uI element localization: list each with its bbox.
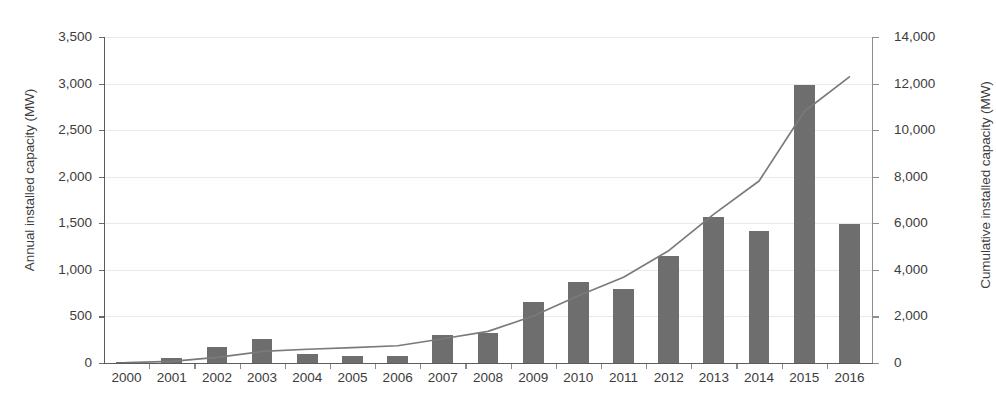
x-axis-tick-label-2005: 2005: [337, 370, 367, 385]
x-axis-tick-label-2011: 2011: [609, 370, 638, 385]
x-axis-tick-label-2010: 2010: [563, 370, 593, 385]
y-axis-left-tick-mark: [99, 316, 104, 317]
y-axis-left-tick-label: 500: [69, 309, 92, 323]
x-axis-tick-label-2008: 2008: [473, 370, 503, 385]
y-axis-left-tick-label: 3,000: [58, 77, 92, 91]
x-axis-tick-mark: [420, 364, 421, 369]
cumulative-line-series: [104, 37, 872, 363]
y-axis-right-tick-label: 14,000: [894, 30, 935, 44]
y-axis-right-tick-mark: [873, 363, 879, 364]
x-axis-tick-mark: [240, 364, 241, 369]
x-axis-tick-label-2014: 2014: [744, 370, 774, 385]
x-axis-tick-label-2006: 2006: [383, 370, 413, 385]
y-axis-left-tick-label: 3,500: [58, 30, 92, 44]
x-axis-tick-mark: [285, 364, 286, 369]
y-axis-right-line: [872, 37, 873, 364]
x-axis-tick-label-2016: 2016: [834, 370, 864, 385]
y-axis-left-tick-mark: [99, 270, 104, 271]
x-axis-tick-mark: [646, 364, 647, 369]
x-axis-tick-mark: [194, 364, 195, 369]
y-axis-right-tick-mark: [873, 130, 879, 131]
y-axis-right-tick-mark: [873, 177, 879, 178]
x-axis-tick-label-2003: 2003: [247, 370, 277, 385]
x-axis-tick-mark: [736, 364, 737, 369]
y-axis-left-tick-label: 2,000: [58, 170, 92, 184]
x-axis-tick-mark: [465, 364, 466, 369]
y-axis-left-line: [104, 37, 105, 364]
y-axis-right-ticks: 02,0004,0006,0008,00010,00012,00014,000: [890, 0, 952, 407]
y-axis-left-tick-mark: [99, 37, 104, 38]
y-axis-right-tick-label: 8,000: [894, 170, 928, 184]
y-axis-right-tick-label: 4,000: [894, 263, 928, 277]
x-axis-ticks: 2000200120022003200420052006200720082009…: [104, 370, 872, 394]
cumulative-line-path: [127, 77, 850, 363]
y-axis-right-tick-mark: [873, 37, 879, 38]
y-axis-left-tick-label: 1,000: [58, 263, 92, 277]
y-axis-right-tick-label: 12,000: [894, 77, 935, 91]
x-axis-tick-label-2000: 2000: [112, 370, 142, 385]
x-axis-tick-mark: [149, 364, 150, 369]
y-axis-right-tick-mark: [873, 316, 879, 317]
y-axis-right-tick-mark: [873, 223, 879, 224]
x-axis-tick-mark: [827, 364, 828, 369]
y-axis-left-tick-label: 1,500: [58, 216, 92, 230]
x-axis-tick-mark: [330, 364, 331, 369]
x-axis-tick-label-2012: 2012: [654, 370, 684, 385]
x-axis-tick-label-2002: 2002: [202, 370, 232, 385]
x-axis-tick-label-2004: 2004: [292, 370, 322, 385]
y-axis-left-tick-mark: [99, 363, 104, 364]
x-axis-tick-mark: [511, 364, 512, 369]
y-axis-left-tick-mark: [99, 177, 104, 178]
x-axis-tick-mark: [782, 364, 783, 369]
x-axis-tick-mark: [601, 364, 602, 369]
y-axis-right-tick-label: 10,000: [894, 123, 935, 137]
x-axis-tick-mark: [375, 364, 376, 369]
plot-area: [104, 37, 872, 363]
x-axis-tick-label-2007: 2007: [428, 370, 458, 385]
y-axis-right-tick-label: 2,000: [894, 309, 928, 323]
x-axis-tick-label-2009: 2009: [518, 370, 548, 385]
y-axis-right-tick-label: 0: [894, 356, 902, 370]
y-axis-left-tick-label: 0: [84, 356, 92, 370]
y-axis-right-tick-mark: [873, 270, 879, 271]
y-axis-left-tick-mark: [99, 84, 104, 85]
y-axis-right-title: Cumulative installed capacity (MW): [978, 10, 996, 360]
y-axis-right-tick-mark: [873, 84, 879, 85]
x-axis-tick-label-2001: 2001: [157, 370, 187, 385]
x-axis-tick-label-2015: 2015: [789, 370, 819, 385]
y-axis-left-tick-label: 2,500: [58, 123, 92, 137]
y-axis-left-tick-mark: [99, 130, 104, 131]
x-axis-tick-label-2013: 2013: [699, 370, 729, 385]
x-axis-line: [104, 363, 873, 364]
y-axis-left-ticks: 05001,0001,5002,0002,5003,0003,500: [34, 0, 98, 407]
x-axis-tick-mark: [556, 364, 557, 369]
x-axis-tick-mark: [691, 364, 692, 369]
y-axis-left-tick-mark: [99, 223, 104, 224]
y-axis-right-tick-label: 6,000: [894, 216, 928, 230]
